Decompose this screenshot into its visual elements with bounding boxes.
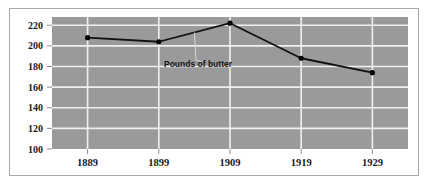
data-point-1909 xyxy=(227,21,232,26)
chart-figure: 100120140160180200220 188918991909191919… xyxy=(0,0,428,186)
x-axis-tick-marks xyxy=(88,149,373,154)
y-tick-label-140: 140 xyxy=(28,102,43,113)
y-tick-label-200: 200 xyxy=(28,40,43,51)
data-point-1899 xyxy=(156,39,161,44)
y-axis-tick-marks xyxy=(47,25,52,149)
y-tick-label-100: 100 xyxy=(28,144,43,155)
x-tick-label-1919: 1919 xyxy=(291,157,312,168)
data-point-1889 xyxy=(85,35,90,40)
y-axis-tick-labels: 100120140160180200220 xyxy=(28,20,43,155)
x-tick-label-1909: 1909 xyxy=(220,157,241,168)
y-tick-label-120: 120 xyxy=(28,123,43,134)
y-tick-label-220: 220 xyxy=(28,20,43,31)
x-tick-label-1889: 1889 xyxy=(77,157,98,168)
x-tick-label-1899: 1899 xyxy=(148,157,169,168)
data-point-1919 xyxy=(299,56,304,61)
line-chart: 100120140160180200220 188918991909191919… xyxy=(0,0,428,186)
annotation-pounds-of-butter: Pounds of butter xyxy=(164,59,233,69)
data-point-1929 xyxy=(370,70,375,75)
x-axis-tick-labels: 18891899190919191929 xyxy=(77,157,383,168)
y-tick-label-180: 180 xyxy=(28,61,43,72)
y-tick-label-160: 160 xyxy=(28,82,43,93)
x-tick-label-1929: 1929 xyxy=(362,157,383,168)
